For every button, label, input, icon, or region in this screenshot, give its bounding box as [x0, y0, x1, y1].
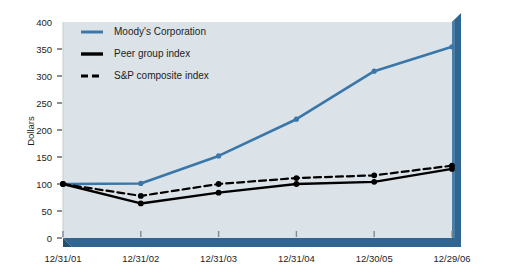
data-point	[216, 153, 221, 158]
right-axis-bar-face	[452, 19, 455, 238]
y-axis-tick-label: 0	[47, 233, 52, 244]
y-axis-ticks: 400350300250200150100500	[36, 17, 62, 244]
legend-label: Moody's Corporation	[114, 26, 206, 37]
x-axis-tick-label: 12/30/05	[356, 253, 393, 264]
data-point	[216, 181, 222, 187]
data-point	[138, 193, 144, 199]
y-axis-tick-label: 200	[36, 125, 52, 136]
legend-label: S&P composite index	[114, 70, 209, 81]
x-axis-tick-label: 12/31/03	[200, 253, 237, 264]
data-point	[138, 181, 143, 186]
data-point	[449, 163, 455, 169]
chart-canvas: 400350300250200150100500 12/31/0112/31/0…	[0, 0, 506, 275]
y-axis-tick-label: 400	[36, 17, 52, 28]
data-point	[138, 201, 144, 207]
stock-performance-chart: 400350300250200150100500 12/31/0112/31/0…	[0, 0, 506, 275]
y-axis-tick-label: 150	[36, 152, 52, 163]
y-axis-tick-label: 100	[36, 179, 52, 190]
x-axis-tick-label: 12/31/02	[122, 253, 159, 264]
y-axis-title: Dollars	[25, 116, 36, 146]
data-point	[60, 181, 66, 187]
x-axis-tick-label: 12/29/06	[434, 253, 471, 264]
y-axis-tick-label: 250	[36, 98, 52, 109]
x-axis-bar	[63, 238, 461, 247]
x-axis-tick-label: 12/31/01	[45, 253, 82, 264]
y-axis-tick-label: 50	[41, 206, 52, 217]
legend-label: Peer group index	[114, 48, 190, 59]
data-point	[372, 69, 377, 74]
data-point	[294, 181, 300, 187]
y-axis-tick-label: 300	[36, 71, 52, 82]
data-point	[294, 175, 300, 181]
data-point	[449, 44, 454, 49]
data-point	[294, 117, 299, 122]
data-point	[216, 190, 222, 196]
data-point	[371, 172, 377, 178]
x-axis-tick-label: 12/31/04	[278, 253, 315, 264]
data-point	[371, 179, 377, 185]
y-axis-tick-label: 350	[36, 44, 52, 55]
